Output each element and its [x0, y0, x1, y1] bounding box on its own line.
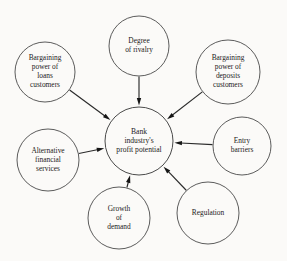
connector-arrowhead-alternative-financial-services — [96, 148, 104, 152]
node-label-bargaining-power-of-deposits-customers: deposits — [216, 71, 240, 80]
node-label-center: profit potential — [116, 145, 161, 154]
node-label-growth-of-demand: of — [116, 213, 123, 222]
node-label-regulation: Regulation — [192, 208, 225, 217]
node-label-bargaining-power-of-loans-customers: power of — [32, 62, 59, 71]
node-alternative-financial-services[interactable]: Alternativefinancialservices — [17, 129, 79, 191]
connector-line-alternative-financial-services — [79, 149, 99, 153]
node-regulation[interactable]: Regulation — [177, 182, 239, 244]
node-label-degree-of-rivalry: of rivalry — [125, 45, 153, 54]
node-label-bargaining-power-of-deposits-customers: power of — [215, 62, 242, 71]
connector-line-bargaining-power-of-loans-customers — [70, 90, 106, 116]
porter-five-forces-diagram: Degreeof rivalryBargainingpower ofdeposi… — [0, 0, 287, 261]
node-bargaining-power-of-loans-customers[interactable]: Bargainingpower ofloanscustomers — [15, 42, 75, 102]
node-label-bargaining-power-of-loans-customers: Bargaining — [29, 53, 62, 62]
node-label-center: Bank — [131, 127, 147, 136]
connector-arrowhead-degree-of-rivalry — [137, 98, 141, 106]
node-growth-of-demand[interactable]: Growthofdemand — [88, 187, 150, 249]
node-label-growth-of-demand: Growth — [108, 204, 131, 213]
connector-line-entry-barriers — [180, 143, 212, 145]
node-layer: Degreeof rivalryBargainingpower ofdeposi… — [15, 16, 271, 249]
connector-line-regulation — [168, 171, 186, 190]
node-label-bargaining-power-of-deposits-customers: customers — [213, 80, 243, 89]
node-label-growth-of-demand: demand — [107, 222, 131, 231]
node-label-alternative-financial-services: financial — [35, 155, 61, 164]
connector-arrowhead-entry-barriers — [174, 141, 182, 145]
connector-line-bargaining-power-of-deposits-customers — [172, 92, 203, 116]
node-label-bargaining-power-of-loans-customers: loans — [37, 71, 53, 80]
node-label-entry-barriers: Entry — [234, 136, 251, 145]
node-degree-of-rivalry[interactable]: Degreeof rivalry — [109, 16, 169, 76]
node-bargaining-power-of-deposits-customers[interactable]: Bargainingpower ofdepositscustomers — [196, 40, 260, 104]
connector-arrowhead-growth-of-demand — [126, 175, 130, 183]
node-label-degree-of-rivalry: Degree — [128, 36, 150, 45]
node-label-bargaining-power-of-deposits-customers: Bargaining — [212, 53, 245, 62]
node-entry-barriers[interactable]: Entrybarriers — [213, 117, 271, 175]
node-label-entry-barriers: barriers — [231, 145, 254, 154]
diagram-canvas: Degreeof rivalryBargainingpower ofdeposi… — [0, 0, 287, 261]
node-label-bargaining-power-of-loans-customers: customers — [30, 80, 60, 89]
node-label-center: industry's — [124, 136, 153, 145]
node-label-alternative-financial-services: services — [36, 164, 60, 173]
node-label-alternative-financial-services: Alternative — [31, 146, 65, 155]
node-center[interactable]: Bankindustry'sprofit potential — [105, 107, 173, 175]
